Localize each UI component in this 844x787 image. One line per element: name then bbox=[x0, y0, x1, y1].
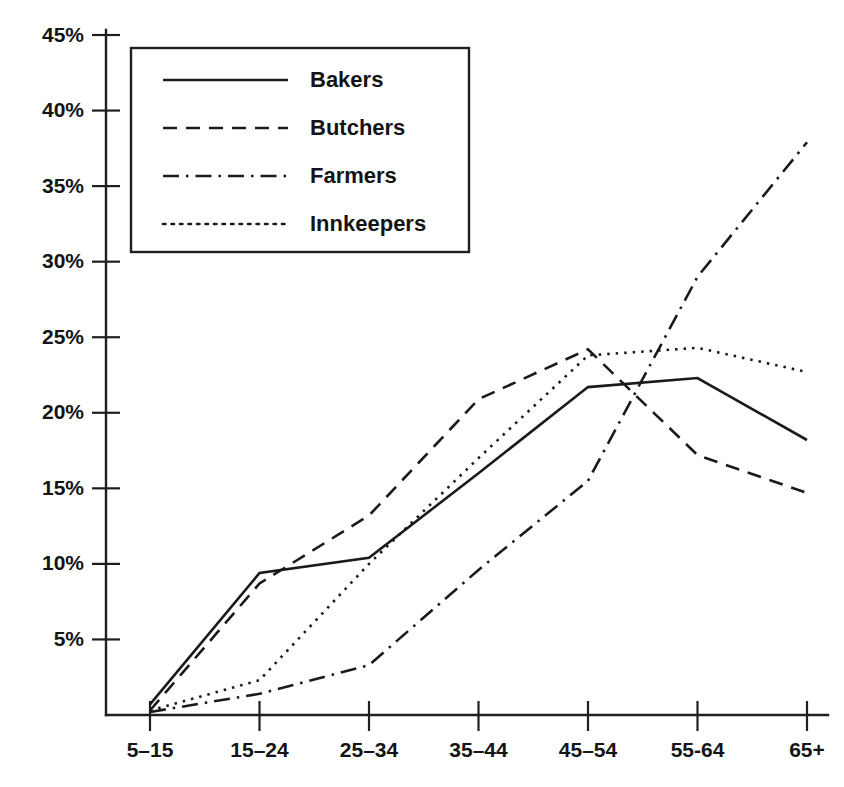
x-tick-label: 5–15 bbox=[127, 738, 174, 761]
x-tick-label: 15–24 bbox=[230, 738, 289, 761]
series-line-innkeepers bbox=[150, 348, 807, 711]
series-line-butchers bbox=[150, 349, 807, 710]
y-tick-label: 10% bbox=[42, 551, 84, 574]
y-tick-label: 30% bbox=[42, 249, 84, 272]
chart-canvas: 45%40%35%30%25%20%15%10%5% 5–1515–2425–3… bbox=[0, 0, 844, 787]
legend-label-farmers: Farmers bbox=[310, 163, 397, 188]
x-axis: 5–1515–2425–3435–4445–5455-6465+ bbox=[127, 701, 825, 761]
y-tick-label: 20% bbox=[42, 400, 84, 423]
x-tick-label: 55-64 bbox=[671, 738, 725, 761]
y-tick-label: 40% bbox=[42, 98, 84, 121]
line-chart: 45%40%35%30%25%20%15%10%5% 5–1515–2425–3… bbox=[0, 0, 844, 787]
legend-label-innkeepers: Innkeepers bbox=[310, 211, 426, 236]
x-tick-label: 65+ bbox=[789, 738, 825, 761]
legend-label-butchers: Butchers bbox=[310, 115, 405, 140]
legend-label-bakers: Bakers bbox=[310, 67, 383, 92]
y-tick-label: 25% bbox=[42, 325, 84, 348]
chart-legend: BakersButchersFarmersInnkeepers bbox=[131, 48, 469, 252]
y-axis: 45%40%35%30%25%20%15%10%5% bbox=[42, 23, 120, 650]
y-tick-label: 15% bbox=[42, 476, 84, 499]
x-tick-label: 35–44 bbox=[449, 738, 508, 761]
y-tick-label: 45% bbox=[42, 23, 84, 46]
series-line-bakers bbox=[150, 378, 807, 704]
y-tick-label: 5% bbox=[54, 627, 85, 650]
x-tick-label: 45–54 bbox=[559, 738, 618, 761]
x-tick-label: 25–34 bbox=[340, 738, 399, 761]
y-tick-label: 35% bbox=[42, 174, 84, 197]
